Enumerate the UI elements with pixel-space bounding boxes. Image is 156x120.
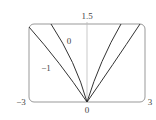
- x-origin-label: 0: [85, 105, 90, 115]
- x-max-label: 3: [148, 97, 153, 107]
- chart: 1.5 −3 3 0 −1 0: [0, 0, 156, 120]
- curve-0-right: [87, 24, 121, 102]
- curve-minus1-right: [87, 24, 140, 102]
- x-min-label: −3: [16, 97, 26, 107]
- curve-minus1-left: [29, 27, 87, 102]
- curve-label-0: 0: [67, 36, 72, 46]
- curve-label-minus1: −1: [41, 63, 51, 73]
- y-max-label: 1.5: [81, 11, 93, 21]
